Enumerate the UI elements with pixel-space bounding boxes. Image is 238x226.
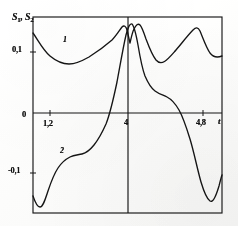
y-axis-caption: S1, S2 [12, 12, 33, 24]
plot-canvas [0, 0, 238, 226]
x-tick-label-right: 4,8 [196, 118, 206, 127]
x-tick-label-mid: 4 [124, 118, 128, 127]
y-caption-subscript-2: 2 [30, 16, 33, 24]
y-tick-label-lower: -0,1 [8, 166, 20, 175]
figure-container: S1, S2 0,1 0 -0,1 1,2 4 4,8 t 1 2 [0, 0, 238, 226]
curve-1-label: 1 [63, 36, 67, 44]
y-caption-subscript-1: 1 [17, 16, 20, 24]
y-tick-label-zero: 0 [22, 110, 26, 119]
x-tick-label-left: 1,2 [43, 119, 53, 128]
curve-2-label: 2 [60, 147, 64, 155]
y-tick-label-upper: 0,1 [12, 45, 22, 54]
x-axis-variable-label: t [218, 117, 220, 126]
